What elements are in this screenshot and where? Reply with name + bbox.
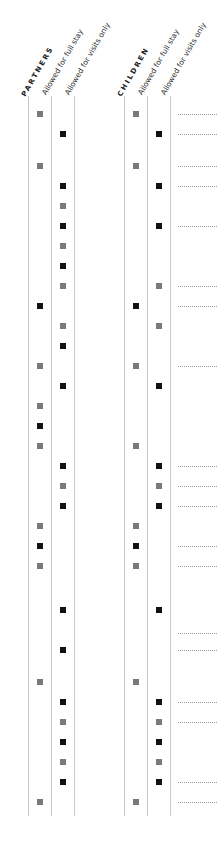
partners-visits-marker xyxy=(60,323,66,329)
dotted-leader-line xyxy=(178,286,217,288)
children-visits-marker xyxy=(156,607,162,613)
dotted-leader-line xyxy=(178,722,217,724)
children-visits-marker xyxy=(156,779,162,785)
partners-full-marker xyxy=(37,543,43,549)
partners-column-line-1 xyxy=(28,96,29,816)
children-full-marker xyxy=(133,163,139,169)
children-full-marker xyxy=(133,111,139,117)
dotted-leader-line xyxy=(178,114,217,116)
partners-visits-marker xyxy=(60,759,66,765)
partners-visits-marker xyxy=(60,243,66,249)
dotted-leader-line xyxy=(178,650,217,652)
children-visits-marker xyxy=(156,383,162,389)
partners-full-marker xyxy=(37,563,43,569)
partners-full-marker xyxy=(37,303,43,309)
children-visits-marker xyxy=(156,483,162,489)
partners-visits-marker xyxy=(60,343,66,349)
partners-column-line-2 xyxy=(51,96,52,816)
partners-visits-marker xyxy=(60,463,66,469)
partners-full-marker xyxy=(37,403,43,409)
children-column-line-3 xyxy=(170,96,171,816)
partners-column-line-3 xyxy=(74,96,75,816)
children-visits-marker xyxy=(156,323,162,329)
dotted-leader-line xyxy=(178,466,217,468)
partners-full-marker xyxy=(37,363,43,369)
partners-full-marker xyxy=(37,111,43,117)
dotted-leader-line xyxy=(178,366,217,368)
partners-visits-marker xyxy=(60,131,66,137)
dotted-leader-line xyxy=(178,486,217,488)
children-column-line-1 xyxy=(124,96,125,816)
children-full-marker xyxy=(133,363,139,369)
dotted-leader-line xyxy=(178,782,217,784)
dotted-leader-line xyxy=(178,633,217,635)
dotted-leader-line xyxy=(178,566,217,568)
partners-full-marker xyxy=(37,799,43,805)
children-full-marker xyxy=(133,523,139,529)
partners-full-marker xyxy=(37,443,43,449)
partners-visits-marker xyxy=(60,223,66,229)
children-full-marker xyxy=(133,679,139,685)
column-header-children-visits-only: Allowed for visits only xyxy=(159,21,208,97)
children-full-marker xyxy=(133,543,139,549)
partners-visits-marker xyxy=(60,283,66,289)
partners-visits-marker xyxy=(60,263,66,269)
partners-visits-marker xyxy=(60,699,66,705)
dotted-leader-line xyxy=(178,306,217,308)
partners-visits-marker xyxy=(60,183,66,189)
children-visits-marker xyxy=(156,463,162,469)
children-visits-marker xyxy=(156,739,162,745)
partners-visits-marker xyxy=(60,503,66,509)
partners-visits-marker xyxy=(60,383,66,389)
children-visits-marker xyxy=(156,283,162,289)
dotted-leader-line xyxy=(178,134,217,136)
children-visits-marker xyxy=(156,699,162,705)
partners-visits-marker xyxy=(60,779,66,785)
partners-visits-marker xyxy=(60,203,66,209)
children-visits-marker xyxy=(156,719,162,725)
dotted-leader-line xyxy=(178,702,217,704)
dotted-leader-line xyxy=(178,226,217,228)
children-full-marker xyxy=(133,799,139,805)
partners-full-marker xyxy=(37,423,43,429)
partners-visits-marker xyxy=(60,647,66,653)
children-visits-marker xyxy=(156,223,162,229)
children-visits-marker xyxy=(156,759,162,765)
partners-full-marker xyxy=(37,679,43,685)
children-visits-marker xyxy=(156,183,162,189)
partners-visits-marker xyxy=(60,739,66,745)
dotted-leader-line xyxy=(178,186,217,188)
children-visits-marker xyxy=(156,503,162,509)
column-header-partners-visits-only: Allowed for visits only xyxy=(63,21,112,97)
dotted-leader-line xyxy=(178,802,217,804)
partners-visits-marker xyxy=(60,483,66,489)
children-full-marker xyxy=(133,303,139,309)
children-full-marker xyxy=(133,443,139,449)
children-column-line-2 xyxy=(147,96,148,816)
children-visits-marker xyxy=(156,131,162,137)
partners-visits-marker xyxy=(60,719,66,725)
children-full-marker xyxy=(133,563,139,569)
partners-full-marker xyxy=(37,163,43,169)
dotted-leader-line xyxy=(178,166,217,168)
partners-full-marker xyxy=(37,523,43,529)
dotted-leader-line xyxy=(178,506,217,508)
partners-visits-marker xyxy=(60,607,66,613)
dotted-leader-line xyxy=(178,546,217,548)
